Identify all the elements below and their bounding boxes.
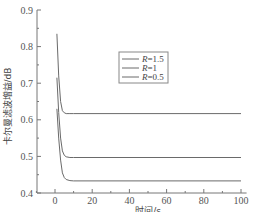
series-line-2 xyxy=(57,78,241,158)
x-tick-label: 60 xyxy=(162,195,172,206)
y-tick-label: 0.4 xyxy=(21,188,34,199)
x-axis-label: 时间/s xyxy=(135,205,161,212)
y-tick-label: 0.8 xyxy=(21,41,34,52)
legend-label: R=0.5 xyxy=(141,72,164,82)
series-line-3 xyxy=(57,109,241,181)
x-tick-label: 100 xyxy=(234,195,249,206)
x-tick-label: 40 xyxy=(124,195,134,206)
x-tick-label: 80 xyxy=(199,195,209,206)
y-axis-label: 卡尔曼滤波增益/dB xyxy=(2,68,13,146)
y-tick-label: 0.7 xyxy=(21,78,34,89)
legend: R=1.5R=1R=0.5 xyxy=(119,52,168,83)
y-tick-label: 0.5 xyxy=(21,151,34,162)
kalman-gain-chart: 0.40.50.60.70.80.9020406080100 R=1.5R=1R… xyxy=(0,0,263,212)
x-tick-label: 20 xyxy=(87,195,97,206)
axes: 0.40.50.60.70.80.9020406080100 xyxy=(21,5,249,207)
y-tick-label: 0.9 xyxy=(21,5,34,16)
y-tick-label: 0.6 xyxy=(21,114,34,125)
x-tick-label: 0 xyxy=(53,195,58,206)
